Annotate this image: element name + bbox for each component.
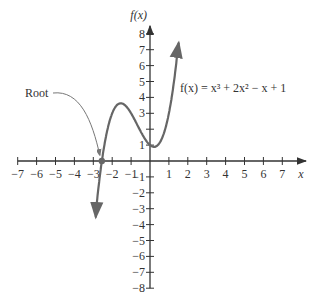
function-graph: −7−6−5−4−3−2−11234567x−8−7−6−5−4−3−2−113… [0,0,313,304]
y-tick-label: −6 [132,249,145,263]
y-tick-label: 1 [139,138,145,152]
y-tick-label: 7 [139,43,145,57]
x-tick-label: −5 [49,167,62,181]
x-tick-label: −6 [30,167,43,181]
root-point [99,158,105,164]
y-tick-label: −4 [132,218,145,232]
y-tick-label: 8 [139,27,145,41]
y-tick-label: 4 [139,90,145,104]
y-tick-label: −8 [132,281,145,295]
y-tick-label: −3 [132,202,145,216]
y-tick-label: −1 [132,170,145,184]
x-tick-label: 3 [204,167,210,181]
y-tick-label: 5 [139,75,145,89]
y-tick-label: 3 [139,106,145,120]
y-tick-label: 6 [139,59,145,73]
y-tick-label: −7 [132,265,145,279]
x-tick-label: 5 [242,167,248,181]
x-tick-label: 2 [185,167,191,181]
x-tick-label: 7 [279,167,285,181]
x-tick-label: −2 [106,167,119,181]
x-tick-label: −7 [11,167,24,181]
y-tick-label: −5 [132,234,145,248]
x-tick-label: −3 [87,167,100,181]
y-axis-label: f(x) [130,8,147,22]
x-tick-label: 1 [166,167,172,181]
x-tick-label: 6 [260,167,266,181]
function-label: f(x) = x³ + 2x² − x + 1 [180,81,286,95]
y-tick-label: −2 [132,186,145,200]
x-axis-label: x [297,167,304,181]
x-tick-label: 4 [223,167,229,181]
x-tick-label: −4 [68,167,81,181]
root-pointer [53,93,100,156]
root-label: Root [25,86,49,100]
